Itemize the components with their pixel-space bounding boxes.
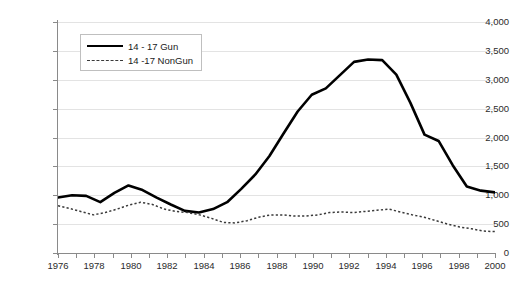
x-axis-tick <box>131 254 132 258</box>
x-axis-tick <box>185 254 186 258</box>
x-axis-tick <box>58 254 59 258</box>
x-axis-tick <box>222 254 223 258</box>
x-axis-tick <box>113 254 114 258</box>
legend-swatch-dashed-icon <box>87 55 123 65</box>
x-axis-tick <box>240 254 241 258</box>
x-axis-tick-label: 1986 <box>220 260 260 271</box>
x-axis-tick-label: 1988 <box>257 260 297 271</box>
x-axis-tick <box>258 254 259 258</box>
x-axis-tick-label: 1998 <box>439 260 479 271</box>
x-axis-tick <box>368 254 369 258</box>
x-axis-tick-label: 1976 <box>38 260 78 271</box>
x-axis-tick <box>349 254 350 258</box>
x-axis-tick <box>459 254 460 258</box>
series-line-nongun <box>58 202 495 231</box>
x-axis-tick-label: 2000 <box>475 260 514 271</box>
x-axis-tick <box>331 254 332 258</box>
x-axis-tick <box>404 254 405 258</box>
chart-legend: 14 - 17 Gun 14 -17 NonGun <box>80 34 202 71</box>
legend-label-gun: 14 - 17 Gun <box>123 41 178 52</box>
legend-item-gun: 14 - 17 Gun <box>81 39 201 53</box>
x-axis-tick <box>422 254 423 258</box>
x-axis-tick <box>295 254 296 258</box>
legend-item-nongun: 14 -17 NonGun <box>81 53 201 67</box>
x-axis-tick-label: 1982 <box>147 260 187 271</box>
x-axis-tick-label: 1980 <box>111 260 151 271</box>
x-axis-tick <box>76 254 77 258</box>
x-axis-tick <box>386 254 387 258</box>
x-axis-tick-label: 1996 <box>402 260 442 271</box>
x-axis-tick-label: 1978 <box>74 260 114 271</box>
x-axis-tick-label: 1992 <box>329 260 369 271</box>
x-axis-tick-label: 1984 <box>184 260 224 271</box>
x-axis-tick-label: 1994 <box>366 260 406 271</box>
x-axis-tick <box>440 254 441 258</box>
x-axis-tick <box>277 254 278 258</box>
x-axis-tick <box>149 254 150 258</box>
figure-caption <box>8 277 503 287</box>
legend-label-nongun: 14 -17 NonGun <box>123 55 193 66</box>
x-axis-tick <box>167 254 168 258</box>
legend-swatch-solid-icon <box>87 41 123 51</box>
series-line-gun <box>58 60 495 213</box>
x-axis-tick <box>204 254 205 258</box>
x-axis-tick <box>313 254 314 258</box>
x-axis-tick-label: 1990 <box>293 260 333 271</box>
x-axis-tick <box>94 254 95 258</box>
